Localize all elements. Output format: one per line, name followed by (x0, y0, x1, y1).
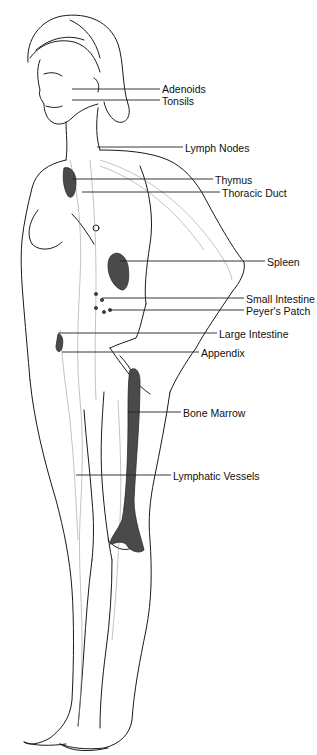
right-leg-outline (60, 392, 170, 749)
label-thymus: Thymus (215, 174, 252, 186)
label-lymphatic-vessels: Lymphatic Vessels (173, 470, 260, 482)
neck-outline (66, 122, 67, 160)
lymphatic-system-diagram: Adenoids Tonsils Lymph Nodes Thymus Thor… (0, 0, 317, 755)
hair-outline (28, 15, 129, 122)
label-lymph-nodes: Lymph Nodes (185, 142, 249, 154)
label-bone-marrow: Bone Marrow (183, 407, 245, 419)
label-large-intestine: Large Intestine (219, 328, 288, 340)
left-leg-outline (24, 380, 74, 744)
bone-marrow-organ (110, 369, 144, 552)
breast-outline (29, 210, 62, 249)
spleen-organ (108, 253, 129, 290)
label-adenoids: Adenoids (162, 83, 206, 95)
peyers-patch-dot (94, 292, 97, 295)
appendix-organ (56, 334, 63, 352)
label-thoracic-duct: Thoracic Duct (222, 187, 287, 199)
figure-illustration (0, 0, 317, 755)
label-appendix: Appendix (201, 347, 245, 359)
label-peyers-patch: Peyer's Patch (246, 305, 310, 317)
label-small-intestine: Small Intestine (246, 293, 315, 305)
face-outline (38, 60, 98, 124)
label-tonsils: Tonsils (162, 95, 194, 107)
thymus-organ (63, 168, 76, 198)
label-spleen: Spleen (267, 256, 300, 268)
